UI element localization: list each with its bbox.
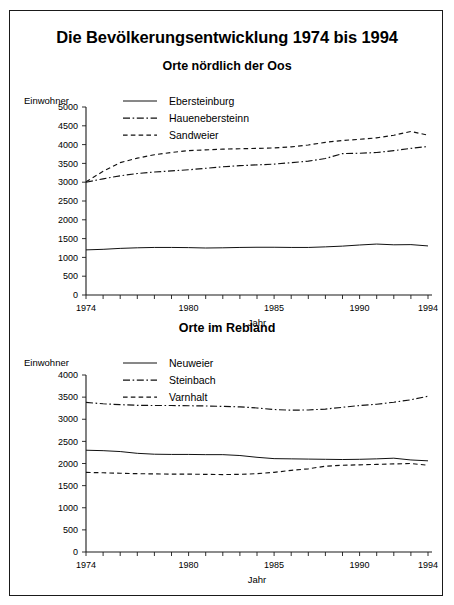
x-tick-label: 1985 [264, 303, 284, 313]
y-tick-label: 4000 [58, 370, 78, 380]
chart1-plot: 0500100015002000250030003500400045005000… [10, 105, 444, 333]
y-tick-label: 5000 [58, 102, 78, 112]
chart2-title: Orte im Rebland [10, 321, 444, 335]
page-title: Die Bevölkerungsentwicklung 1974 bis 199… [10, 28, 444, 47]
x-tick-label: 1994 [418, 560, 438, 570]
y-tick-label: 2000 [58, 215, 78, 225]
y-tick-label: 500 [63, 525, 78, 535]
series-line-neuweier [86, 450, 428, 461]
series-line-varnhalt [86, 464, 428, 475]
chart-svg: 0500100015002000250030003500400019741980… [10, 367, 444, 587]
chart1-title: Orte nördlich der Oos [10, 59, 444, 73]
y-tick-label: 4500 [58, 121, 78, 131]
y-tick-label: 3500 [58, 159, 78, 169]
series-line-sandweier [86, 131, 428, 181]
x-tick-label: 1990 [350, 560, 370, 570]
series-line-ebersteinburg [86, 244, 428, 250]
poster-page: Die Bevölkerungsentwicklung 1974 bis 199… [0, 0, 454, 605]
x-tick-label: 1990 [350, 303, 370, 313]
poster-frame: Die Bevölkerungsentwicklung 1974 bis 199… [9, 10, 443, 596]
legend-line-swatch-solid [122, 96, 158, 106]
y-tick-label: 0 [73, 547, 78, 557]
x-tick-label: 1994 [418, 303, 438, 313]
y-tick-label: 0 [73, 290, 78, 300]
chart-panel-im-rebland: Orte im Rebland Einwohner NeuweierSteinb… [10, 321, 444, 586]
y-tick-label: 1000 [58, 253, 78, 263]
x-tick-label: 1974 [76, 303, 96, 313]
x-tick-label: 1985 [264, 560, 284, 570]
y-tick-label: 2500 [58, 437, 78, 447]
y-tick-label: 3000 [58, 177, 78, 187]
y-tick-label: 500 [63, 271, 78, 281]
chart-panel-nordlich-der-oos: Orte nördlich der Oos Einwohner Eberstei… [10, 59, 444, 329]
y-tick-label: 4000 [58, 140, 78, 150]
y-tick-label: 2500 [58, 196, 78, 206]
y-tick-label: 1000 [58, 503, 78, 513]
x-tick-label: 1980 [179, 303, 199, 313]
series-line-steinbach [86, 396, 428, 410]
legend-line-swatch-solid [122, 358, 158, 368]
chart-svg: 0500100015002000250030003500400045005000… [10, 105, 444, 329]
x-tick-label: 1974 [76, 560, 96, 570]
y-tick-label: 1500 [58, 234, 78, 244]
x-tick-label: 1980 [179, 560, 199, 570]
y-tick-label: 1500 [58, 481, 78, 491]
y-tick-label: 3000 [58, 414, 78, 424]
chart2-plot: 0500100015002000250030003500400019741980… [10, 367, 444, 591]
x-axis-title: Jahr [248, 574, 266, 585]
y-tick-label: 3500 [58, 392, 78, 402]
series-line-hauenebersteinn [86, 146, 428, 182]
y-tick-label: 2000 [58, 459, 78, 469]
